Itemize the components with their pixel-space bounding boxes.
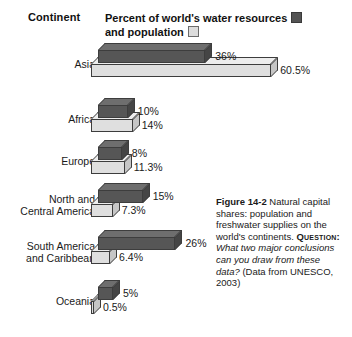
legend-label-population: and population bbox=[105, 26, 184, 38]
bar-front-face bbox=[98, 237, 175, 250]
chart-row: Africa14%10% bbox=[0, 98, 352, 144]
category-label: South Americaand Caribbean bbox=[0, 240, 95, 264]
bar-front-face bbox=[91, 251, 110, 264]
bar-value-label: 8% bbox=[132, 147, 147, 160]
bar-front-face bbox=[91, 161, 125, 174]
bar-top-face bbox=[98, 230, 182, 237]
bar-front-face bbox=[98, 190, 143, 203]
question-label: Question: bbox=[297, 231, 340, 242]
figure-caption: Figure 14-2 Natural capital shares: popu… bbox=[216, 196, 344, 289]
legend-entry-population: and population bbox=[105, 25, 345, 39]
bar-water-resources: 5% bbox=[98, 280, 120, 300]
bar-front-face bbox=[98, 147, 122, 160]
bar-value-label: 26% bbox=[185, 237, 206, 250]
category-label: Asia bbox=[0, 58, 95, 70]
bar-water-resources: 15% bbox=[98, 183, 150, 203]
legend-label-water: Percent of world's water resources bbox=[105, 12, 287, 24]
bar-front-face bbox=[98, 105, 128, 118]
bar-front-face bbox=[91, 301, 94, 314]
figure-number: Figure 14-2 bbox=[216, 196, 267, 207]
bar-value-label: 36% bbox=[215, 50, 236, 63]
legend-entry-water: Percent of world's water resources bbox=[105, 11, 345, 25]
bar-chart: Asia60.5%36%Africa14%10%Europe11.3%8%Nor… bbox=[0, 40, 352, 337]
chart-row: Europe11.3%8% bbox=[0, 140, 352, 186]
category-label: Europe bbox=[0, 155, 95, 167]
figure-container: Continent Percent of world's water resou… bbox=[0, 0, 352, 337]
population-swatch bbox=[188, 26, 199, 37]
bar-water-resources: 26% bbox=[98, 230, 182, 250]
bar-value-label: 11.3% bbox=[134, 161, 163, 174]
bar-water-resources: 36% bbox=[98, 43, 212, 63]
category-label: Oceania bbox=[0, 295, 95, 307]
bar-top-face bbox=[98, 43, 212, 50]
bar-water-resources: 10% bbox=[98, 98, 135, 118]
water-resources-swatch bbox=[291, 12, 302, 23]
bar-value-label: 6.4% bbox=[119, 251, 143, 264]
bar-front-face bbox=[91, 119, 133, 132]
legend: Percent of world's water resources and p… bbox=[105, 11, 345, 39]
bar-value-label: 14% bbox=[142, 119, 163, 132]
chart-row: Asia60.5%36% bbox=[0, 43, 352, 89]
bar-value-label: 7.3% bbox=[122, 204, 146, 217]
bar-front-face bbox=[91, 204, 113, 217]
bar-top-face bbox=[98, 183, 150, 190]
bar-value-label: 60.5% bbox=[280, 64, 310, 77]
category-label: North andCentral America bbox=[0, 193, 95, 217]
column-header-continent: Continent bbox=[28, 11, 80, 23]
bar-value-label: 5% bbox=[123, 287, 138, 300]
bar-value-label: 10% bbox=[138, 105, 159, 118]
bar-water-resources: 8% bbox=[98, 140, 129, 160]
bar-front-face bbox=[91, 64, 271, 77]
category-label: Africa bbox=[0, 113, 95, 125]
bar-front-face bbox=[98, 287, 113, 300]
bar-value-label: 15% bbox=[153, 190, 174, 203]
bar-front-face bbox=[98, 50, 205, 63]
bar-value-label: 0.5% bbox=[103, 301, 127, 314]
